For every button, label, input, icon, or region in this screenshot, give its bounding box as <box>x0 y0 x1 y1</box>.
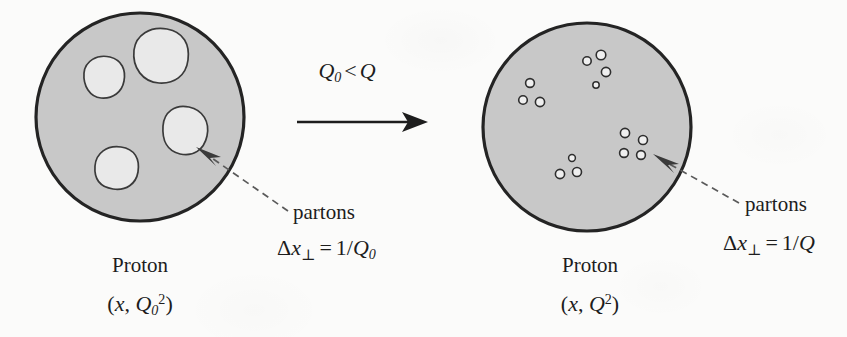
left-one-over: 1/ <box>336 235 353 260</box>
right-equals-symbol: = <box>761 230 781 255</box>
right-proton-label: Proton <box>562 255 618 276</box>
diagram-canvas <box>0 0 847 337</box>
right-partons-callout-label: partons <box>745 194 807 215</box>
right-perp-symbol: ⊥ <box>747 241 761 258</box>
left-proton-group <box>36 13 288 221</box>
left-equals-symbol: = <box>315 235 335 260</box>
right-state-close-paren: ) <box>612 291 619 316</box>
right-state-comma: , <box>578 291 589 316</box>
left-x-symbol: x <box>291 235 301 260</box>
condition-q0-symbol: Q <box>318 58 334 83</box>
left-parton-blob-1 <box>84 56 125 98</box>
parton-evolution-figure: Q0<Q partons Δx⊥=1/Q0 Proton (x, Q02) pa… <box>0 0 847 337</box>
right-state-q: Q <box>589 291 605 316</box>
left-q-subscript: 0 <box>369 246 376 262</box>
left-parton-blob-2 <box>134 28 189 83</box>
right-delta-symbol: Δ <box>723 230 737 255</box>
condition-relation: < <box>341 58 359 83</box>
left-state-x: x <box>115 291 125 316</box>
evolution-condition-label: Q0<Q <box>318 60 375 84</box>
left-state-close-paren: ) <box>165 291 172 316</box>
left-proton-label: Proton <box>112 255 168 276</box>
left-proton-state-label: (x, Q02) <box>107 292 172 317</box>
condition-q-symbol: Q <box>360 58 376 83</box>
right-one-over: 1/ <box>782 230 799 255</box>
left-partons-callout-label: partons <box>293 202 355 223</box>
right-state-superscript: 2 <box>605 291 612 307</box>
left-state-comma: , <box>124 291 135 316</box>
right-state-x: x <box>568 291 578 316</box>
condition-q0-subscript: 0 <box>334 69 341 85</box>
left-state-q: Q <box>135 291 151 316</box>
right-proton-group <box>483 23 739 231</box>
right-q-symbol: Q <box>799 230 815 255</box>
left-state-subscript: 0 <box>151 302 158 318</box>
left-resolution-label: Δx⊥=1/Q0 <box>277 237 376 262</box>
left-delta-symbol: Δ <box>277 235 291 260</box>
left-parton-blob-3 <box>163 106 208 154</box>
right-proton-state-label: (x, Q2) <box>561 292 619 315</box>
left-parton-blob-4 <box>95 147 139 190</box>
right-x-symbol: x <box>737 230 747 255</box>
right-resolution-label: Δx⊥=1/Q <box>723 232 815 257</box>
right-proton-circle <box>483 23 691 231</box>
left-perp-symbol: ⊥ <box>301 246 315 263</box>
left-q-symbol: Q <box>353 235 369 260</box>
evolution-arrow <box>297 112 428 132</box>
